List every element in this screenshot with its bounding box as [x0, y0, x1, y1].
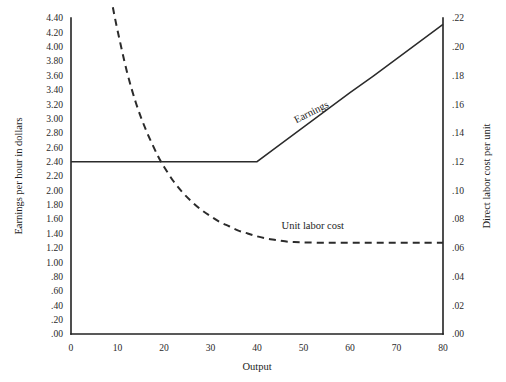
x-axis-tick-label: 30 — [206, 342, 216, 353]
y-axis-right-tick-label: .18 — [452, 70, 464, 81]
y-axis-left-tick-label: 1.60 — [46, 213, 63, 224]
x-axis-tick-label: 80 — [438, 342, 448, 353]
y-axis-right-tick-label: .08 — [452, 213, 464, 224]
x-axis-tick-label: 60 — [345, 342, 355, 353]
x-axis-tick-label: 20 — [159, 342, 169, 353]
y-axis-left-tick-label: .80 — [51, 271, 63, 282]
y-axis-left-tick-label: .40 — [51, 300, 63, 311]
y-axis-left-title: Earnings per hour in dollars — [13, 117, 24, 234]
y-axis-left-tick-label: 3.80 — [46, 55, 63, 66]
y-axis-left-tick-label: 1.80 — [46, 199, 63, 210]
y-axis-right-tick-label: .06 — [452, 242, 464, 253]
y-axis-right-tick-label: .10 — [452, 185, 464, 196]
chart-canvas: .00.20.40.60.801.001.201.401.601.802.002… — [0, 0, 506, 382]
y-axis-right-tick-label: .22 — [452, 12, 464, 23]
series-group — [71, 7, 443, 243]
y-axis-right-tick-label: .00 — [452, 328, 464, 339]
x-axis-title: Output — [242, 361, 271, 372]
y-axis-left-tick-label: 1.40 — [46, 228, 63, 239]
y-axis-left-tick-label: 2.80 — [46, 127, 63, 138]
y-axis-left-tick-label: 4.00 — [46, 41, 63, 52]
x-axis-tick-label: 0 — [69, 342, 74, 353]
series-line-earnings — [71, 24, 443, 161]
y-axis-left-tick-label: 3.60 — [46, 70, 63, 81]
y-axis-left-tick-label: 4.20 — [46, 27, 63, 38]
y-axis-left-tick-label: 3.00 — [46, 113, 63, 124]
y-axis-left-tick-label: 2.40 — [46, 156, 63, 167]
chart-figure: .00.20.40.60.801.001.201.401.601.802.002… — [0, 0, 506, 382]
y-axis-right-tick-label: .02 — [452, 300, 464, 311]
y-axis-left-tick-label: 2.60 — [46, 142, 63, 153]
series-labels: Earnings Unit labor cost — [282, 99, 344, 232]
y-axis-right-ticks: .00.02.04.06.08.10.12.14.16.18.20.22 — [452, 12, 464, 339]
series-label-unit-labor-cost: Unit labor cost — [282, 220, 344, 231]
y-axis-left-tick-label: .60 — [51, 285, 63, 296]
y-axis-left-tick-label: 3.20 — [46, 99, 63, 110]
x-axis-ticks: 01020304050607080 — [69, 342, 448, 353]
x-axis-tick-label: 50 — [299, 342, 309, 353]
x-axis-tick-label: 40 — [252, 342, 262, 353]
y-axis-left-tick-label: .20 — [51, 314, 63, 325]
y-axis-left-tick-label: .00 — [51, 328, 63, 339]
y-axis-left-tick-label: 2.00 — [46, 185, 63, 196]
x-axis-tick-label: 10 — [113, 342, 123, 353]
series-line-unit-labor-cost — [113, 7, 443, 243]
y-axis-left-tick-label: 1.00 — [46, 257, 63, 268]
y-axis-left-ticks: .00.20.40.60.801.001.201.401.601.802.002… — [46, 12, 63, 339]
y-axis-right-title: Direct labor cost per unit — [481, 123, 492, 228]
y-axis-right-tick-label: .16 — [452, 99, 464, 110]
y-axis-right-tick-label: .04 — [452, 271, 464, 282]
y-axis-right-tick-label: .12 — [452, 156, 464, 167]
y-axis-right-tick-label: .14 — [452, 127, 464, 138]
y-axis-left-tick-label: 2.20 — [46, 170, 63, 181]
x-axis-tick-label: 70 — [392, 342, 402, 353]
y-axis-right-tick-label: .20 — [452, 41, 464, 52]
y-axis-left-tick-label: 3.40 — [46, 84, 63, 95]
y-axis-left-tick-label: 4.40 — [46, 12, 63, 23]
y-axis-left-tick-label: 1.20 — [46, 242, 63, 253]
